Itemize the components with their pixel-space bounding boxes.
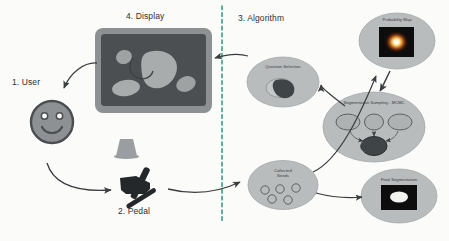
stage-label-algorithm: 3. Algorithm xyxy=(238,13,284,23)
arrow-pedal-to-seeds xyxy=(168,182,240,193)
arrow-seeds-to-final xyxy=(316,193,362,198)
foot-pedal-icon xyxy=(120,166,157,209)
arrow-user-to-pedal xyxy=(47,163,111,190)
collected-seeds-line-2: Seeds xyxy=(249,173,317,178)
node-label-question-selection: Question Selection xyxy=(249,64,317,69)
node-label-collected-seeds: Collected Seeds xyxy=(249,168,317,179)
stage-label-display: 4. Display xyxy=(126,11,164,21)
smiley-face-icon xyxy=(31,101,73,143)
arrow-algorithm-to-display xyxy=(215,54,248,58)
arrow-display-to-user xyxy=(64,63,97,88)
node-label-probability-map: Probability Map xyxy=(363,17,431,22)
stage-label-user: 1. User xyxy=(12,77,40,87)
stage-label-pedal: 2. Pedal xyxy=(118,206,150,216)
diagram-svg xyxy=(0,0,449,241)
arrow-probmap-to-sampling xyxy=(380,71,390,91)
node-label-final-segmentation: Final Segmentation xyxy=(365,177,433,182)
node-label-segmentation-sampling: Segmentation Sampling - MCMC xyxy=(326,100,422,105)
diagram-canvas: 1. User 2. Pedal 3. Algorithm 4. Display… xyxy=(0,0,449,241)
monitor-icon xyxy=(95,28,212,159)
